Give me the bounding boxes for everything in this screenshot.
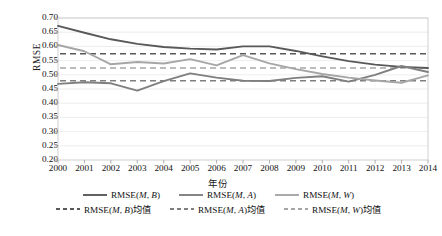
chart-legend: RMSE(M, B)RMSE(M, A)RMSE(M, W) RMSE(M, B… — [0, 190, 436, 216]
legend-item-label: RMSE(M, A)均值 — [198, 202, 265, 216]
legend-swatch-icon — [169, 205, 195, 213]
legend-row-series: RMSE(M, B)RMSE(M, A)RMSE(M, W) — [0, 190, 436, 200]
legend-swatch-icon — [55, 205, 81, 213]
legend-item[interactable]: RMSE(M, A)均值 — [169, 202, 265, 216]
legend-swatch-icon — [82, 191, 108, 199]
legend-swatch-icon — [178, 191, 204, 199]
legend-item-label: RMSE(M, W) — [303, 190, 354, 200]
legend-item-label: RMSE(M, A) — [207, 190, 256, 200]
legend-swatch-icon — [274, 191, 300, 199]
legend-item[interactable]: RMSE(M, B) — [82, 190, 160, 200]
legend-swatch-icon — [283, 205, 309, 213]
legend-item-label: RMSE(M, B)均值 — [84, 202, 151, 216]
legend-item[interactable]: RMSE(M, B)均值 — [55, 202, 151, 216]
legend-item[interactable]: RMSE(M, W) — [274, 190, 354, 200]
x-axis-title: 年份 — [0, 176, 436, 190]
legend-item-label: RMSE(M, W)均值 — [312, 202, 381, 216]
legend-item[interactable]: RMSE(M, W)均值 — [283, 202, 381, 216]
legend-row-means: RMSE(M, B)均值RMSE(M, A)均值RMSE(M, W)均值 — [0, 202, 436, 216]
legend-item-label: RMSE(M, B) — [111, 190, 160, 200]
legend-item[interactable]: RMSE(M, A) — [178, 190, 256, 200]
series-line — [58, 66, 428, 91]
